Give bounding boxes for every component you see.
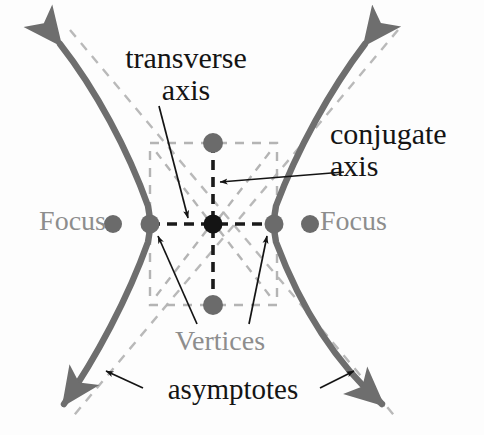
leader-vertex-left bbox=[158, 236, 197, 324]
covertex-point-bottom bbox=[203, 295, 223, 315]
focus-point-right bbox=[301, 215, 319, 233]
focus-label-left: Focus bbox=[10, 206, 106, 235]
center-spoke-up-right bbox=[219, 148, 273, 218]
vertices-label: Vertices bbox=[140, 326, 300, 355]
asymptotes-label: asymptotes bbox=[138, 374, 328, 404]
covertex-point-top bbox=[203, 133, 223, 153]
focus-point-left bbox=[104, 215, 122, 233]
conjugate-axis-label: conjugate axis bbox=[330, 118, 484, 181]
vertex-point-right bbox=[265, 215, 284, 234]
vertex-point-left bbox=[141, 215, 160, 234]
transverse-axis-label: transverse axis bbox=[96, 42, 276, 105]
leader-transverse-axis bbox=[159, 106, 188, 218]
leader-vertex-right bbox=[249, 236, 267, 324]
leader-conjugate-axis bbox=[220, 172, 344, 182]
center-point bbox=[204, 215, 223, 234]
center-spoke-up-left bbox=[153, 148, 207, 218]
hyperbola-diagram-canvas: transverse axis conjugate axis Focus Foc… bbox=[0, 0, 484, 435]
focus-label-right: Focus bbox=[320, 206, 440, 235]
